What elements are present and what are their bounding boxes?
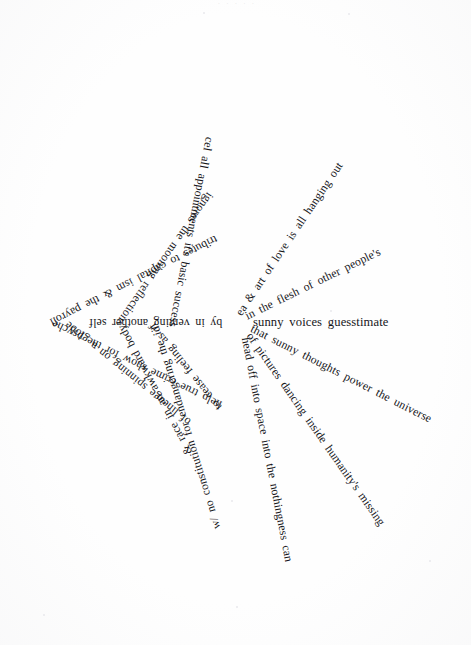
scan-speck (43, 614, 45, 616)
scan-speck (330, 310, 332, 312)
poem-page: · · · · · w/ no constitution for endange… (0, 0, 471, 645)
scan-speck (231, 500, 233, 502)
scan-speck (429, 560, 431, 562)
cropped-header-trace: · · · · · (196, 0, 278, 7)
scan-speck (203, 12, 205, 14)
spoke-text: sunny voices guesstimate (253, 316, 388, 329)
scan-speck (236, 606, 238, 608)
scan-speck (348, 13, 350, 15)
